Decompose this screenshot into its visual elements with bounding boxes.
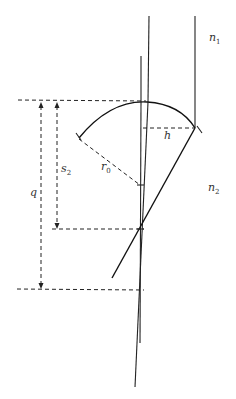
refracted-axis-ray — [135, 102, 148, 387]
arc-end-tick-right — [197, 126, 202, 133]
optics-diagram — [0, 0, 236, 399]
q-base: q — [30, 186, 37, 199]
n2-sub: 2 — [215, 188, 219, 196]
label-n1: n1 — [209, 32, 221, 46]
q-arrow-down-icon — [39, 283, 44, 289]
label-h: h — [164, 130, 171, 141]
r0-sub: 0 — [106, 167, 110, 175]
s2-arrow-up-icon — [55, 102, 60, 108]
label-n2: n2 — [208, 182, 220, 196]
q-arrow-up-icon — [39, 102, 44, 108]
refracting-surface-arc — [79, 102, 195, 138]
h-base: h — [164, 129, 171, 142]
label-q: q — [30, 187, 37, 198]
s2-sub: 2 — [67, 169, 71, 177]
n1-sub: 1 — [216, 38, 220, 46]
incident-ray-axis — [148, 16, 149, 102]
optical-axis — [140, 102, 141, 343]
vertex-ref-line — [18, 100, 146, 101]
refracted-marginal-ray — [112, 128, 195, 278]
q-ref-line — [17, 289, 144, 290]
label-r0: r0 — [101, 161, 111, 175]
label-s2: s2 — [61, 163, 71, 177]
s2-arrow-down-icon — [55, 223, 60, 229]
